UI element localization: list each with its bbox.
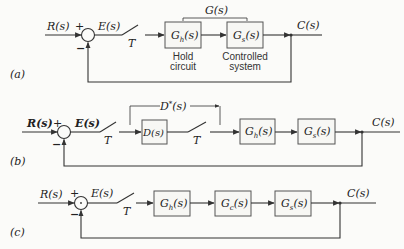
diagram-a: (a) R(s) + − E(s) T Gh(s) Hold circuit G…	[10, 4, 322, 82]
plus-sign: +	[70, 187, 79, 200]
diagram-b: (b) R(s) + − E(s) T D(s) T D*(s) Gh(s) G…	[10, 100, 400, 168]
hold-caption-2: circuit	[170, 61, 196, 72]
sampler-switch-2	[188, 122, 206, 132]
block-diagrams: (a) R(s) + − E(s) T Gh(s) Hold circuit G…	[0, 0, 404, 249]
block-plant-text: Gs(s)	[281, 197, 308, 212]
sampler-label: T	[123, 205, 132, 218]
error-label: E(s)	[97, 20, 120, 33]
plant-caption-2: system	[229, 61, 261, 72]
block-hold-text: Gh(s)	[245, 125, 273, 140]
block-hold-text: Gh(s)	[171, 29, 199, 44]
output-label: C(s)	[347, 187, 370, 200]
g-bracket-label: G(s)	[205, 4, 228, 17]
block-plant-text: Gs(s)	[233, 29, 260, 44]
dstar-label: D*(s)	[159, 100, 187, 113]
input-label: R(s)	[46, 20, 70, 33]
sampler-switch	[117, 193, 134, 203]
sampler-1-label: T	[104, 134, 113, 147]
minus-sign: −	[76, 42, 85, 55]
summing-junction	[58, 126, 71, 139]
junction-dot	[80, 202, 82, 204]
error-label: E(s)	[74, 117, 100, 130]
plus-sign: +	[53, 117, 62, 130]
minus-sign: −	[52, 138, 61, 151]
diagram-c: (c) R(s) + − E(s) T Gh(s) Gc(s) Gs(s) C(…	[10, 187, 376, 239]
diagram-b-label: (b)	[10, 155, 26, 168]
block-plant-text: Gs(s)	[304, 125, 331, 140]
output-label: C(s)	[372, 116, 395, 129]
output-label: C(s)	[297, 19, 320, 32]
sampler-switch	[122, 25, 138, 35]
summing-junction	[82, 29, 95, 42]
input-label: R(s)	[26, 117, 53, 130]
minus-sign: −	[70, 208, 79, 221]
sampler-switch-1	[100, 122, 116, 132]
sampler-label: T	[128, 37, 137, 50]
block-hold-text: Gh(s)	[160, 197, 188, 212]
diagram-c-label: (c)	[10, 226, 25, 239]
sampler-2-label: T	[193, 134, 202, 147]
diagram-a-label: (a)	[10, 68, 25, 81]
block-controller-text: Gc(s)	[221, 197, 248, 212]
input-label: R(s)	[39, 188, 63, 201]
g-bracket	[183, 18, 247, 21]
error-label: E(s)	[90, 187, 113, 200]
block-d-text: D(s)	[142, 127, 164, 138]
